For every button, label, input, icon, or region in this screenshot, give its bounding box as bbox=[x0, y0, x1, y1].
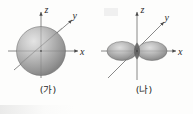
z-axis-label: z bbox=[140, 4, 145, 15]
origin-point bbox=[136, 50, 138, 52]
panel-a-caption: (가) bbox=[0, 84, 96, 96]
p-orbital-diagram: z y x bbox=[96, 0, 192, 92]
y-axis-label: y bbox=[72, 10, 78, 21]
panel-b-caption: (나) bbox=[96, 84, 192, 96]
panel-a-s-orbital: z y x (가) bbox=[0, 0, 96, 114]
s-orbital-diagram: z y x bbox=[0, 0, 96, 92]
panel-b-p-orbital: z y x (나) bbox=[96, 0, 192, 114]
z-axis-label: z bbox=[44, 4, 49, 15]
x-axis-label: x bbox=[79, 46, 85, 57]
orbital-figure: z y x (가) bbox=[0, 0, 193, 114]
origin-point bbox=[40, 50, 42, 52]
x-axis-label: x bbox=[177, 46, 183, 57]
y-axis-label: y bbox=[164, 12, 170, 23]
